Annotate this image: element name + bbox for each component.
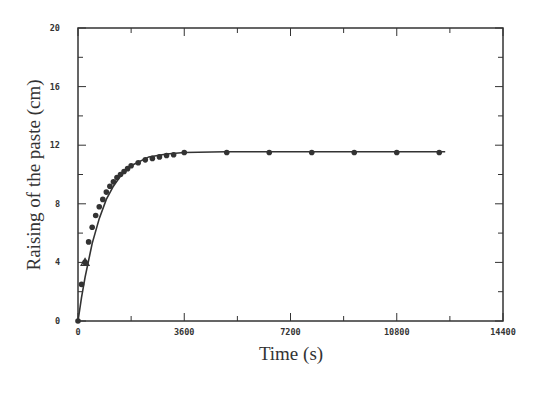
y-tick-label: 16 [50,82,60,92]
y-tick-label: 8 [55,199,60,209]
y-tick-label: 12 [50,140,60,150]
chart: 0360072001080014400048121620 Time (s) Ra… [0,0,542,393]
x-tick-label: 7200 [280,327,300,337]
y-tick-label: 20 [50,23,60,33]
fit-line [78,152,445,321]
data-series [75,150,445,324]
axis-ticks: 0360072001080014400048121620 [50,23,516,337]
data-point [96,204,102,210]
data-point [93,213,99,219]
x-tick-label: 14400 [490,327,516,337]
data-point [86,239,92,245]
x-axis-title: Time (s) [259,343,323,365]
plot-frame [78,28,503,321]
x-tick-label: 10800 [384,327,410,337]
y-tick-label: 0 [55,316,60,326]
plot-border [78,28,503,321]
y-axis-title: Raising of the paste (cm) [23,79,45,270]
data-point [89,224,95,230]
x-tick-label: 3600 [174,327,194,337]
x-tick-label: 0 [75,327,80,337]
y-tick-label: 4 [55,257,60,267]
